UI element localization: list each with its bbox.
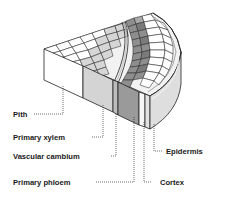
label-epidermis: Epidermis <box>166 147 203 156</box>
label-primary-phloem: Primary phloem <box>13 178 71 187</box>
label-cortex: Cortex <box>160 178 185 187</box>
label-vascular-cambium: Vascular cambium <box>13 152 80 161</box>
stem-wedge-diagram: Pith Primary xylem Vascular cambium Prim… <box>0 0 228 204</box>
label-pith: Pith <box>13 110 28 119</box>
cambium-band <box>113 80 118 115</box>
label-primary-xylem: Primary xylem <box>13 133 65 142</box>
cortex-band <box>139 92 145 127</box>
epidermis-band <box>145 94 150 129</box>
